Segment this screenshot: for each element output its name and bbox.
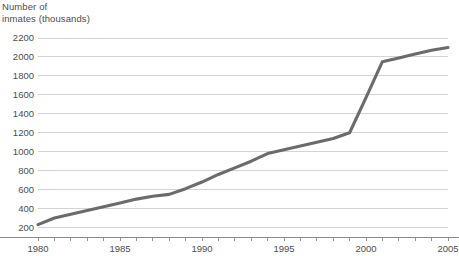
y-axis-tick-label: 2000 [13, 51, 34, 62]
gridlines [38, 38, 448, 228]
y-axis-tick-labels: 2004006008001000120014001600180020002200 [13, 32, 34, 233]
y-axis-tick-label: 400 [18, 203, 34, 214]
y-axis-tick-label: 1000 [13, 146, 34, 157]
inmates-data-line [38, 47, 448, 224]
x-axis-ticks [38, 237, 448, 241]
x-axis-tick-label: 1995 [273, 243, 294, 254]
x-axis-tick-label: 1990 [191, 243, 212, 254]
plot-area: 2004006008001000120014001600180020002200… [0, 0, 459, 256]
y-axis-tick-label: 1800 [13, 70, 34, 81]
y-axis-tick-label: 1600 [13, 89, 34, 100]
x-axis-tick-label: 2000 [355, 243, 376, 254]
x-axis-tick-label: 1985 [109, 243, 130, 254]
y-axis-tick-label: 200 [18, 222, 34, 233]
y-axis-tick-label: 1200 [13, 127, 34, 138]
x-axis-tick-label: 1980 [27, 243, 48, 254]
y-axis-tick-label: 2200 [13, 32, 34, 43]
x-axis-tick-label: 2005 [437, 243, 458, 254]
y-axis-tick-label: 600 [18, 184, 34, 195]
y-axis-tick-label: 800 [18, 165, 34, 176]
y-axis-tick-label: 1400 [13, 108, 34, 119]
x-axis-tick-labels: 198019851990199520002005 [27, 243, 458, 254]
inmates-line-chart: Number of inmates (thousands) 2004006008… [0, 0, 459, 256]
